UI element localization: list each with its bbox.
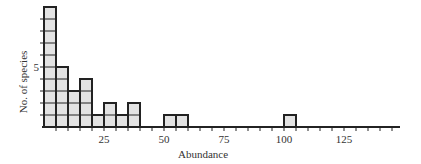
x-axis-label: Abundance xyxy=(178,148,228,160)
histogram-bar xyxy=(116,115,128,127)
histogram-chart: 2550751001255AbundanceNo. of species xyxy=(0,0,421,164)
histogram-bar xyxy=(284,115,296,127)
histogram-bar xyxy=(56,67,68,127)
x-tick-label: 50 xyxy=(159,133,171,145)
bars xyxy=(44,7,296,127)
histogram-bar xyxy=(128,103,140,127)
histogram-bar xyxy=(104,103,116,127)
x-tick-label: 100 xyxy=(276,133,293,145)
histogram-bar xyxy=(92,115,104,127)
x-tick-label: 25 xyxy=(99,133,111,145)
histogram-bar xyxy=(176,115,188,127)
y-axis-label: No. of species xyxy=(17,51,29,114)
histogram-bar xyxy=(68,91,80,127)
histogram-bar xyxy=(80,79,92,127)
histogram-bar xyxy=(164,115,176,127)
x-tick-label: 75 xyxy=(219,133,231,145)
y-tick-label: 5 xyxy=(34,61,40,73)
histogram-bar xyxy=(44,7,56,127)
x-tick-label: 125 xyxy=(336,133,353,145)
